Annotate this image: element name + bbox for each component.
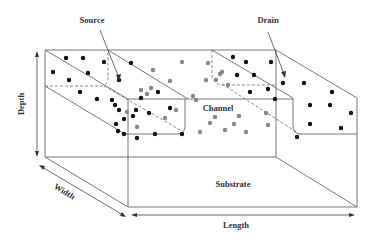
- dopant-dot: [122, 132, 126, 136]
- dopant-dot: [168, 79, 172, 83]
- dopant-dot: [81, 56, 85, 60]
- dopant-dot: [308, 103, 312, 107]
- dopant-dot: [194, 98, 198, 102]
- dopant-dot: [248, 90, 252, 94]
- dopant-dot: [139, 96, 143, 100]
- dopant-dot: [204, 78, 208, 82]
- dopant-dot: [131, 114, 135, 118]
- dopant-dot: [295, 135, 299, 139]
- dopant-dot: [168, 106, 172, 110]
- dopant-dot: [129, 61, 133, 65]
- dopant-dot: [232, 122, 236, 126]
- dopant-dot: [180, 132, 184, 136]
- dopant-dot: [266, 123, 270, 127]
- dopant-dot: [110, 98, 114, 102]
- dopant-dot: [328, 103, 332, 107]
- dopant-dot: [156, 90, 160, 94]
- dopant-dot: [191, 94, 195, 98]
- dopant-dot: [78, 90, 82, 94]
- width-dimension: Width: [39, 165, 126, 217]
- substrate-label: Substrate: [216, 179, 251, 189]
- dopant-dot: [147, 111, 151, 115]
- dopant-dot: [139, 88, 143, 92]
- dopant-dot: [226, 83, 230, 87]
- dopant-dot: [153, 132, 157, 136]
- dopant-dot: [180, 60, 184, 64]
- dopant-dot: [134, 108, 138, 112]
- dopant-dot: [214, 78, 218, 82]
- dopant-dot: [281, 81, 285, 85]
- dopant-dot: [114, 122, 118, 126]
- dopant-dot: [223, 128, 227, 132]
- source-arrow: [100, 30, 119, 78]
- dopant-dot: [95, 97, 99, 101]
- dopant-dots-gray: [125, 60, 270, 134]
- dopant-dot: [113, 103, 117, 107]
- dopant-dot: [302, 81, 306, 85]
- dopant-dot: [145, 92, 149, 96]
- dopant-dots-dark: [51, 55, 353, 140]
- dopant-dot: [244, 60, 248, 64]
- dopant-dot: [198, 130, 202, 134]
- depth-label: Depth: [16, 93, 26, 115]
- dopant-dot: [102, 60, 106, 64]
- dopant-dot: [235, 73, 239, 77]
- dopant-dot: [116, 129, 120, 133]
- dopant-dot: [213, 115, 217, 119]
- dopant-dot: [264, 111, 268, 115]
- source-label: Source: [80, 15, 105, 25]
- dopant-dot: [339, 126, 343, 130]
- dopant-dot: [266, 87, 270, 91]
- dopant-dot: [86, 71, 90, 75]
- mosfet-diagram: Source Drain Channel Substrate Depth Wid…: [0, 0, 373, 239]
- drain-arrowhead: [281, 71, 286, 78]
- dopant-dot: [122, 117, 126, 121]
- dopant-dot: [163, 116, 167, 120]
- source-region: [45, 50, 188, 134]
- dopant-dot: [151, 68, 155, 72]
- dopant-dot: [244, 130, 248, 134]
- dopant-dot: [174, 108, 178, 112]
- width-label: Width: [52, 181, 77, 202]
- dopant-dot: [237, 114, 241, 118]
- depth-dimension: Depth: [16, 51, 39, 157]
- length-label: Length: [223, 220, 249, 230]
- dopant-dot: [51, 70, 55, 74]
- dopant-dot: [64, 56, 68, 60]
- dopant-dot: [206, 61, 210, 65]
- dopant-dot: [349, 111, 353, 115]
- dopant-dot: [208, 121, 212, 125]
- drain-label: Drain: [257, 15, 279, 25]
- dopant-dot: [117, 108, 121, 112]
- length-dimension: Length: [131, 213, 355, 230]
- dopant-dot: [218, 72, 222, 76]
- dopant-dot: [252, 73, 256, 77]
- dopant-dot: [125, 110, 129, 114]
- dopant-dot: [308, 122, 312, 126]
- dopant-dot: [231, 55, 235, 59]
- dopant-dot: [67, 78, 71, 82]
- dopant-dot: [330, 90, 334, 94]
- dopant-dot: [135, 125, 139, 129]
- channel-label: Channel: [203, 103, 234, 113]
- dopant-dot: [273, 97, 277, 101]
- device-box: [45, 50, 357, 207]
- dopant-dot: [269, 60, 273, 64]
- drain-region: [212, 50, 357, 134]
- dopant-dot: [135, 136, 139, 140]
- dopant-dot: [149, 86, 153, 90]
